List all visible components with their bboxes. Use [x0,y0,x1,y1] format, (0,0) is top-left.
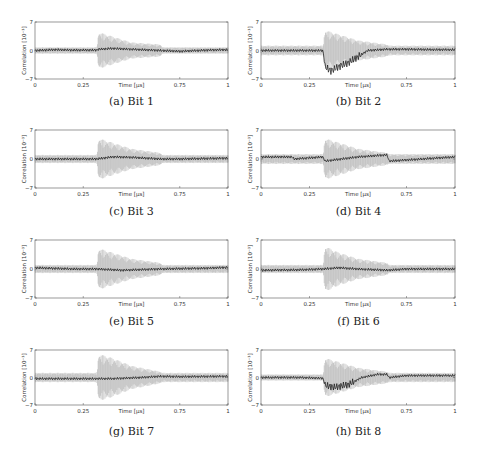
y-tick-label: −7 [25,295,34,301]
y-tick-label: 7 [30,127,34,133]
y-tick-label: 7 [30,237,34,243]
y-tick-label: 0 [256,266,260,272]
y-tick-label: 7 [256,127,260,133]
x-tick-label: 0 [259,301,263,307]
y-axis-label: Correlation [10⁻³] [21,353,27,401]
axes-box [261,350,455,405]
axes-box [261,22,455,79]
x-tick-label: 0.75 [400,408,413,414]
correlation-series [35,266,228,271]
axes-box [35,22,228,79]
x-tick-label: 1 [453,408,457,414]
panel-caption: (d) Bit 4 [239,205,478,218]
y-tick-label: 0 [256,156,260,162]
y-axis-label: Correlation [10⁻³] [21,135,27,183]
axes-box [261,130,455,188]
x-tick-label: 0.75 [400,82,413,88]
chart-panel-c: −70700.250.751Time [µs]Correlation [10⁻³… [0,0,478,453]
panel-caption: (e) Bit 5 [12,315,251,328]
panel-caption: (c) Bit 3 [12,205,251,218]
envelope-series [35,250,228,289]
y-tick-label: −7 [251,185,260,191]
x-tick-label: 0 [33,301,37,307]
x-tick-label: 0.25 [303,301,316,307]
y-axis-label: Correlation [10⁻³] [247,135,253,183]
chart-svg: −70700.250.751Time [µs]Correlation [10⁻³… [0,0,478,453]
x-tick-label: 1 [453,191,457,197]
x-tick-label: 0 [33,408,37,414]
x-tick-label: 0.75 [174,408,187,414]
x-tick-label: 1 [226,82,230,88]
x-tick-label: 0.25 [77,408,90,414]
chart-panel-d: −70700.250.751Time [µs]Correlation [10⁻³… [0,0,478,453]
correlation-series [35,375,228,380]
envelope-series [261,140,455,179]
chart-svg: −70700.250.751Time [µs]Correlation [10⁻³… [0,0,478,453]
x-tick-label: 0.25 [77,301,90,307]
y-axis-label: Correlation [10⁻³] [247,245,253,293]
y-tick-label: −7 [251,295,260,301]
correlation-series [261,48,455,74]
y-tick-label: 7 [256,237,260,243]
chart-panel-g: −70700.250.751Time [µs]Correlation [10⁻³… [0,0,478,453]
x-axis-label: Time [µs] [344,408,371,415]
x-tick-label: 0.25 [303,408,316,414]
x-tick-label: 1 [453,301,457,307]
x-axis-label: Time [µs] [344,191,371,198]
axes-box [35,240,228,298]
y-tick-label: 7 [256,347,260,353]
y-tick-label: −7 [25,185,34,191]
x-tick-label: 1 [226,301,230,307]
axes-box [35,350,228,405]
x-tick-label: 0 [259,191,263,197]
panel-caption: (h) Bit 8 [239,425,478,438]
panel-caption: (f) Bit 6 [239,315,478,328]
y-tick-label: 0 [256,48,260,54]
x-tick-label: 0.25 [77,191,90,197]
envelope-series [35,33,228,67]
x-tick-label: 0.75 [174,191,187,197]
chart-svg: −70700.250.751Time [µs]Correlation [10⁻³… [0,0,478,453]
y-axis-label: Correlation [10⁻³] [21,245,27,293]
envelope-series [35,355,228,400]
x-axis-label: Time [µs] [118,408,145,415]
chart-svg: −70700.250.751Time [µs]Correlation [10⁻³… [0,0,478,453]
envelope-series [35,140,228,179]
correlation-series [261,373,455,390]
x-axis-label: Time [µs] [118,301,145,308]
x-tick-label: 1 [453,82,457,88]
chart-panel-f: −70700.250.751Time [µs]Correlation [10⁻³… [0,0,478,453]
y-tick-label: 0 [30,48,34,54]
x-tick-label: 0.75 [174,82,187,88]
correlation-series [261,267,455,272]
chart-svg: −70700.250.751Time [µs]Correlation [10⁻³… [0,0,478,453]
y-tick-label: 0 [256,375,260,381]
x-tick-label: 0.25 [303,82,316,88]
y-tick-label: 0 [30,266,34,272]
y-tick-label: 7 [30,347,34,353]
y-axis-label: Correlation [10⁻³] [247,26,253,74]
x-tick-label: 0 [259,82,263,88]
x-tick-label: 0.25 [77,82,90,88]
x-tick-label: 0.75 [174,301,187,307]
panel-caption: (b) Bit 2 [239,95,478,108]
chart-panel-a: −70700.250.751Time [µs]Correlation [10⁻³… [0,0,478,453]
envelope-series [261,248,455,290]
axes-box [35,130,228,188]
x-tick-label: 0 [33,191,37,197]
y-tick-label: 0 [30,156,34,162]
envelope-series [261,359,455,396]
x-axis-label: Time [µs] [344,301,371,308]
correlation-series [35,156,228,160]
chart-panel-h: −70700.250.751Time [µs]Correlation [10⁻³… [0,0,478,453]
x-tick-label: 0 [33,82,37,88]
panel-caption: (a) Bit 1 [12,95,251,108]
y-axis-label: Correlation [10⁻³] [21,26,27,74]
panel-caption: (g) Bit 7 [12,425,251,438]
x-tick-label: 0.25 [303,191,316,197]
x-axis-label: Time [µs] [118,191,145,198]
y-tick-label: −7 [251,76,260,82]
x-tick-label: 0 [259,408,263,414]
x-axis-label: Time [µs] [118,82,145,89]
correlation-series [261,154,455,163]
